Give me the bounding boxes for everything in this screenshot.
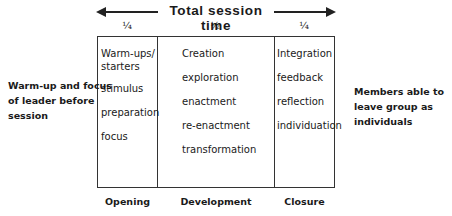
left-note-line: Warm-up and focus bbox=[8, 78, 112, 93]
list-item: exploration bbox=[182, 72, 239, 84]
divider-development-closure bbox=[274, 36, 275, 187]
arrow-line-left bbox=[104, 11, 158, 13]
list-item: Integration bbox=[277, 48, 332, 60]
label-closure: Closure bbox=[275, 196, 334, 207]
left-note: Warm-up and focus of leader before sessi… bbox=[8, 78, 112, 123]
right-note: Members able to leave group as individua… bbox=[354, 84, 444, 129]
fraction-opening: ¼ bbox=[112, 20, 142, 31]
fraction-development: ½ bbox=[200, 20, 230, 31]
list-item: re-enactment bbox=[182, 120, 250, 132]
arrow-line-right bbox=[274, 11, 328, 13]
list-item: focus bbox=[101, 131, 128, 143]
list-item: individuation bbox=[277, 120, 342, 132]
list-item: enactment bbox=[182, 96, 236, 108]
list-item: Warm-ups/ bbox=[101, 48, 155, 60]
list-item: feedback bbox=[277, 72, 323, 84]
right-note-line: individuals bbox=[354, 114, 444, 129]
right-note-line: Members able to bbox=[354, 84, 444, 99]
right-note-line: leave group as bbox=[354, 99, 444, 114]
left-note-line: of leader before bbox=[8, 93, 112, 108]
list-item: starters bbox=[101, 61, 140, 73]
arrow-right-icon bbox=[326, 7, 336, 17]
left-note-line: session bbox=[8, 108, 112, 123]
label-opening: Opening bbox=[97, 196, 158, 207]
fraction-closure: ¼ bbox=[289, 20, 319, 31]
list-item: Creation bbox=[182, 48, 224, 60]
list-item: reflection bbox=[277, 96, 324, 108]
label-development: Development bbox=[158, 196, 274, 207]
list-item: transformation bbox=[182, 144, 256, 156]
